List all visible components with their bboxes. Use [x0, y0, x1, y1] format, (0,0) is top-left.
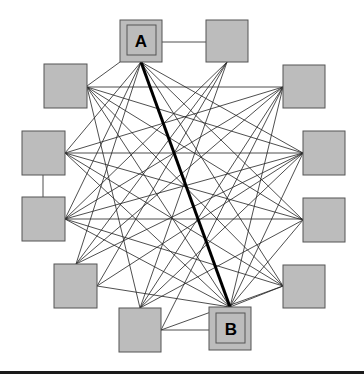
- node-1[interactable]: [206, 20, 248, 62]
- node-b-label: B: [225, 320, 237, 339]
- node-9[interactable]: [22, 131, 65, 175]
- network-diagram: A B: [0, 0, 364, 378]
- highlighted-edge-a-b: [141, 62, 230, 307]
- node-7[interactable]: [54, 264, 97, 308]
- node-3[interactable]: [303, 131, 345, 175]
- node-5[interactable]: [283, 265, 325, 308]
- node-2[interactable]: [283, 65, 325, 108]
- node-a[interactable]: A: [120, 20, 162, 62]
- node-a-label: A: [135, 32, 147, 51]
- node-4[interactable]: [303, 198, 345, 242]
- diagram-canvas: A B: [0, 0, 364, 378]
- bottom-rule: [0, 371, 364, 374]
- node-b[interactable]: B: [209, 307, 251, 350]
- node-6[interactable]: [119, 308, 161, 352]
- node-8[interactable]: [22, 197, 65, 241]
- node-10[interactable]: [44, 64, 87, 108]
